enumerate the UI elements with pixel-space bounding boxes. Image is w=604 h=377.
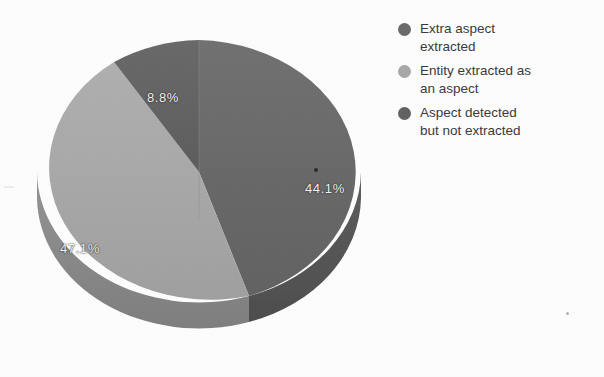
legend-item-extra-aspect-extracted[interactable]: Extra aspect extracted <box>398 20 598 56</box>
pie-chart-plot-area: 44.1% 47.1% 8.8% <box>24 22 374 358</box>
scan-artifact-smudge-margin <box>4 186 14 188</box>
legend-item-label: Aspect detected but not extracted <box>420 104 521 140</box>
pie-label-entity-extracted-as-aspect: 47.1% <box>60 241 100 256</box>
legend-item-label: Extra aspect extracted <box>420 20 495 56</box>
scan-artifact-speck <box>314 168 318 172</box>
pie-chart-figure: 44.1% 47.1% 8.8% Extra aspect extracted … <box>0 0 604 377</box>
legend-dot-icon <box>398 107 411 120</box>
legend-item-label: Entity extracted as an aspect <box>420 62 531 98</box>
chart-legend: Extra aspect extracted Entity extracted … <box>398 20 598 146</box>
pie-label-aspect-detected-not-extracted: 8.8% <box>147 90 179 105</box>
legend-item-entity-extracted-as-aspect[interactable]: Entity extracted as an aspect <box>398 62 598 98</box>
pie-top-face <box>49 40 356 300</box>
pie-label-extra-aspect-extracted: 44.1% <box>305 181 345 196</box>
scan-artifact-speck-corner <box>566 312 569 315</box>
legend-item-aspect-detected-not-extracted[interactable]: Aspect detected but not extracted <box>398 104 598 140</box>
legend-dot-icon <box>398 23 411 36</box>
legend-dot-icon <box>398 65 411 78</box>
